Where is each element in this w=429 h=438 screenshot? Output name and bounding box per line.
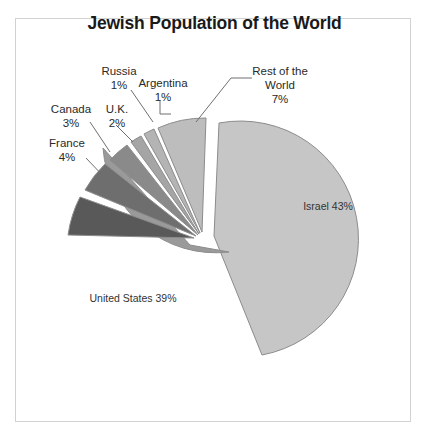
label-united-states-name: United States	[90, 292, 153, 304]
label-rest-of-world-line2: World	[238, 78, 322, 92]
label-argentina: Argentina 1%	[132, 76, 194, 104]
label-canada-name: Canada	[51, 103, 91, 115]
label-france-name: France	[49, 137, 85, 149]
label-canada-pct: 3%	[44, 116, 98, 130]
label-france: France 4%	[40, 136, 94, 164]
label-rest-of-world-line1: Rest of the	[252, 65, 308, 77]
label-united-states-pct: 39%	[155, 292, 176, 304]
pie-slice-israel[interactable]	[214, 121, 358, 355]
label-united-states: United States 39%	[86, 292, 180, 305]
pie-chart	[0, 0, 429, 438]
label-israel-name: Israel	[303, 200, 329, 212]
label-israel-pct: 43%	[332, 200, 353, 212]
label-rest-of-world: Rest of the World 7%	[238, 64, 322, 106]
label-argentina-name: Argentina	[138, 77, 187, 89]
label-rest-of-world-pct: 7%	[238, 92, 322, 106]
label-israel: Israel 43%	[302, 200, 354, 213]
label-uk-pct: 2%	[98, 116, 136, 130]
label-uk-name: U.K.	[106, 103, 128, 115]
label-france-pct: 4%	[40, 150, 94, 164]
label-canada: Canada 3%	[44, 102, 98, 130]
label-uk: U.K. 2%	[98, 102, 136, 130]
label-argentina-pct: 1%	[132, 90, 194, 104]
leader-line-rest-of-world-2	[196, 78, 231, 122]
